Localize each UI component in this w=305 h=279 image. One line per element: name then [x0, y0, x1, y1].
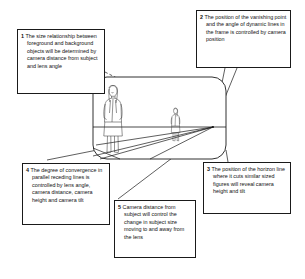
callout-number: 1 — [21, 33, 26, 39]
callout-number: 5 — [118, 204, 123, 210]
vanishing-point — [212, 126, 214, 128]
callout-box-5[interactable]: 5 Camera distance from subject will cont… — [114, 200, 196, 258]
callout-box-4[interactable]: 4 The degree of convergence in parallel … — [22, 163, 110, 225]
camera-frame — [93, 77, 226, 159]
callout-box-3[interactable]: 3 The position of the horizon line where… — [203, 162, 291, 214]
callout-text-2: 2 The position of the vanishing point an… — [200, 14, 287, 44]
callout-text-4: 4 The degree of convergence in parallel … — [26, 167, 106, 204]
callout-text-3: 3 The position of the horizon line where… — [207, 166, 287, 196]
callout-text-5: 5 Camera distance from subject will cont… — [118, 204, 192, 241]
callout-box-1[interactable]: 1 The size relationship between foregrou… — [17, 29, 105, 94]
diagram-canvas: 1 The size relationship between foregrou… — [0, 0, 305, 279]
leader-line-box3 — [226, 150, 228, 162]
callout-number: 4 — [26, 167, 31, 173]
callout-number: 3 — [207, 166, 212, 172]
callout-number: 2 — [200, 14, 205, 20]
callout-text-1: 1 The size relationship between foregrou… — [21, 33, 101, 70]
callout-box-2[interactable]: 2 The position of the vanishing point an… — [196, 10, 291, 68]
